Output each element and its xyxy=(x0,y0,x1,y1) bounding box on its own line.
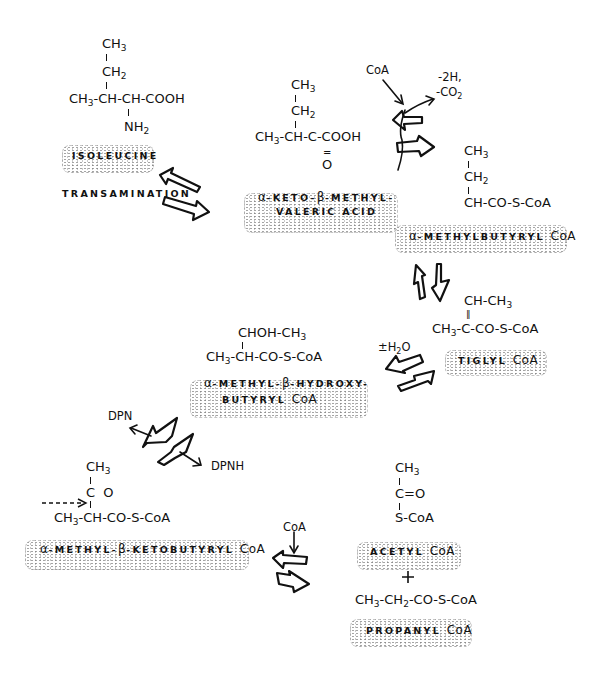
tiglyl-node: CH-CH3 ‖ CH3-C-CO-S-CoA xyxy=(432,293,582,343)
acetyl-carbonyl: C=O xyxy=(395,486,425,501)
decarboxylation-reverse-arrow xyxy=(393,111,422,130)
dpnh-label: DPNH xyxy=(211,459,244,473)
oxidation-reverse-arrow xyxy=(143,418,177,447)
propanyl-label: PROPANYL CoA xyxy=(366,623,472,637)
thiolase-reverse-arrow xyxy=(273,551,307,568)
keto-valeric-label-line1: α-KETO-β-METHYL- xyxy=(258,190,394,204)
hydroxybutyryl-backbone: CH3-CH-CO-S-CoA xyxy=(206,349,322,364)
tiglyl-backbone: CH3-C-CO-S-CoA xyxy=(432,321,538,336)
dehydrogenation-up-arrow xyxy=(414,265,425,299)
acetyl-thioester: S-CoA xyxy=(395,510,434,525)
tiglyl-label: TIGLYL CoA xyxy=(458,353,538,367)
coa-cofactor-label-2: CoA xyxy=(283,520,306,534)
keto-valeric-label-line2: VALERIC ACID xyxy=(276,206,377,217)
transamination-forward-arrow xyxy=(163,197,209,220)
hydroxybutyryl-node: CHOH-CH3 CH3-CH-CO-S-CoA xyxy=(204,325,354,375)
water-label: ±H2O xyxy=(378,340,410,356)
isoleucine-nh2: NH2 xyxy=(124,119,149,134)
transamination-label: TRANSAMINATION xyxy=(62,188,191,199)
ketobutyryl-backbone: CH3-CH-CO-S-CoA xyxy=(54,510,170,525)
keto-valeric-backbone: CH3-CH-C-COOH xyxy=(255,129,361,144)
thiolase-forward-arrow xyxy=(277,571,309,592)
co2-output-arrow xyxy=(405,99,433,113)
dpn-label: DPN xyxy=(108,409,132,423)
ketobutyryl-label: α-METHYL-β-KETOBUTYRYL CoA xyxy=(40,542,265,556)
minus-2h-label: -2H, xyxy=(438,70,462,84)
isoleucine-ch3-top: CH3 xyxy=(102,36,127,51)
ketobutyryl-carbonyl: C O xyxy=(86,485,114,500)
methylbutyryl-label: α-METHYLBUTYRYL CoA xyxy=(409,229,576,243)
isoleucine-node: CH3 CH2 CH3-CH-CH-COOH NH2 xyxy=(65,36,195,146)
methylbutyryl-backbone: CH-CO-S-CoA xyxy=(464,195,551,210)
hydroxybutyryl-label-line2: BUTYRYL CoA xyxy=(222,392,317,406)
isoleucine-ch2: CH2 xyxy=(102,64,127,79)
plus-sign xyxy=(402,571,414,583)
isoleucine-label: ISOLEUCINE xyxy=(72,150,159,161)
hydration-forward-arrow xyxy=(398,371,434,391)
co2-label: -CO2 xyxy=(436,85,462,101)
hydroxybutyryl-label-line1: α-METHYL-β-HYDROXY- xyxy=(204,376,369,390)
acetyl-node: CH3 C=O S-CoA xyxy=(393,460,473,530)
hydration-reverse-arrow xyxy=(386,355,423,373)
keto-valeric-node: CH3 CH2 CH3-CH-C-COOH = O xyxy=(255,77,395,187)
coa-cofactor-label: CoA xyxy=(366,63,389,77)
methylbutyryl-node: CH3 CH2 CH-CO-S-CoA xyxy=(462,143,582,223)
ketobutyryl-node: CH3 C O CH3-CH-CO-S-CoA xyxy=(54,459,214,529)
propanyl-structure: CH3-CH2-CO-S-CoA xyxy=(355,592,477,607)
acetyl-label: ACETYL CoA xyxy=(370,544,455,558)
isoleucine-backbone: CH3-CH-CH-COOH xyxy=(69,91,185,106)
